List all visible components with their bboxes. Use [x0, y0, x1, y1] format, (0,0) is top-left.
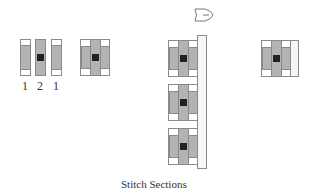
label-3: 1	[53, 79, 59, 94]
stacked-block-2	[168, 84, 198, 121]
shuttle-needle-icon	[192, 6, 216, 24]
vertical-rail	[197, 35, 207, 169]
strip-3	[51, 39, 62, 76]
stacked-block-3	[168, 128, 198, 165]
label-2: 2	[37, 79, 43, 94]
joined-block	[80, 39, 110, 76]
strip-2	[35, 39, 46, 76]
final-block	[261, 40, 291, 77]
diagram-caption: Stitch Sections	[121, 178, 187, 190]
label-1: 1	[22, 79, 28, 94]
strip-1	[20, 39, 31, 76]
stacked-block-1	[168, 40, 198, 77]
short-rail	[290, 40, 299, 77]
